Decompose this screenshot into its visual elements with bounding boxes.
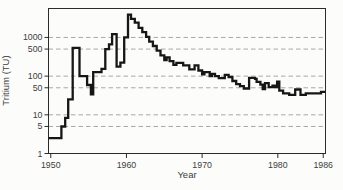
x-tick-label: 1950 bbox=[41, 160, 61, 170]
y-tick-label: 5 bbox=[38, 121, 43, 131]
x-tick-label: 1960 bbox=[117, 160, 137, 170]
y-axis-title: Tritium (TU) bbox=[0, 55, 11, 105]
x-tick-label: 1986 bbox=[313, 160, 333, 170]
y-tick-label: 10 bbox=[33, 110, 43, 120]
y-tick-label: 1 bbox=[38, 149, 43, 159]
y-tick-label: 1000 bbox=[23, 32, 43, 42]
x-axis-title: Year bbox=[177, 169, 196, 180]
plot-area: 151050100500100019501960197019801986 bbox=[23, 9, 333, 170]
y-tick-label: 500 bbox=[28, 44, 43, 54]
y-tick-label: 50 bbox=[33, 83, 43, 93]
plot-frame bbox=[49, 9, 326, 154]
y-tick-label: 100 bbox=[28, 71, 43, 81]
x-tick-label: 1980 bbox=[268, 160, 288, 170]
tritium-time-series-figure: 151050100500100019501960197019801986 Yea… bbox=[0, 0, 343, 190]
tritium-chart: 151050100500100019501960197019801986 Yea… bbox=[0, 0, 343, 190]
